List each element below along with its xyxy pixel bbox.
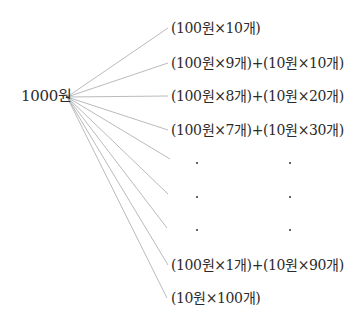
- ellipsis-dot: [289, 196, 291, 198]
- ellipsis-dot: [196, 229, 198, 231]
- branch-line-8: [67, 97, 168, 265]
- branch-label-8: (100원×1개)+(10원×90개): [171, 256, 344, 274]
- branch-line-1: [67, 28, 168, 97]
- ellipsis-dot: [196, 196, 198, 198]
- branch-line-7: [67, 97, 167, 228]
- ellipsis-dot: [289, 162, 291, 164]
- branch-label-4: (100원×7개)+(10원×30개): [171, 121, 344, 139]
- branch-line-6: [67, 97, 168, 194]
- ellipsis-dot: [196, 162, 198, 164]
- branch-line-2: [67, 63, 168, 97]
- root-label: 1000원: [21, 87, 72, 105]
- branch-label-1: (100원×10개): [171, 19, 260, 37]
- branch-lines: [0, 0, 361, 323]
- branch-line-3: [67, 96, 168, 97]
- ellipsis-dot: [289, 229, 291, 231]
- branch-label-2: (100원×9개)+(10원×10개): [171, 54, 344, 72]
- branch-line-4: [67, 97, 168, 130]
- branch-label-3: (100원×8개)+(10원×20개): [171, 87, 344, 105]
- branch-label-9: (10원×100개): [171, 289, 260, 307]
